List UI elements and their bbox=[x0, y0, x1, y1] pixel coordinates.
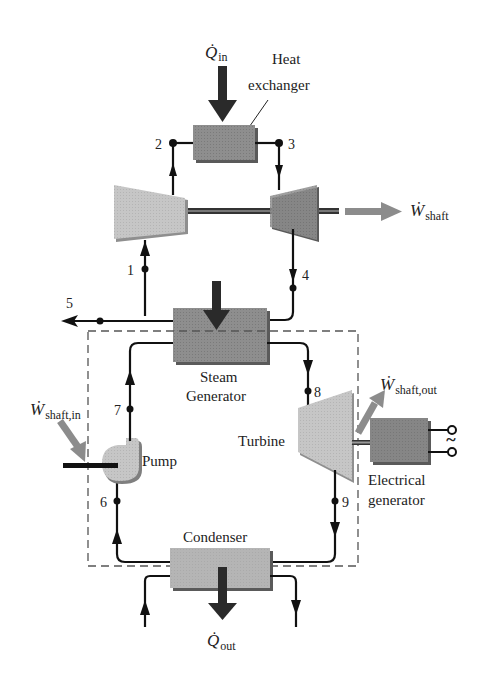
flow-arrow-icon bbox=[125, 370, 135, 385]
state-point-8-label: 8 bbox=[314, 385, 321, 400]
electrical-generator-label-line1: Electrical bbox=[368, 472, 425, 488]
steam-generator-label-line1: Steam bbox=[200, 369, 238, 385]
w-shaft-in-arrow-icon bbox=[60, 421, 86, 462]
state-point-9-label: 9 bbox=[342, 495, 349, 510]
pump-shaft bbox=[63, 463, 118, 468]
pipe-turbine-to-condenser bbox=[270, 470, 335, 562]
w-shaft-out-label: Ẇshaft,out bbox=[380, 375, 437, 397]
q-out-label: Q̇out bbox=[207, 631, 236, 653]
w-shaft-arrow-icon bbox=[345, 202, 402, 221]
state-point-5-dot bbox=[97, 318, 104, 325]
heat-exchanger-label-line1: Heat bbox=[272, 51, 301, 67]
state-point-1-dot bbox=[142, 266, 149, 273]
pump-label: Pump bbox=[142, 453, 177, 469]
cooling-water-inlet bbox=[145, 576, 170, 627]
q-in-arrow-icon bbox=[208, 66, 237, 122]
state-point-7-dot bbox=[127, 406, 134, 413]
state-point-4-label: 4 bbox=[302, 268, 309, 283]
heat-exchanger bbox=[193, 125, 258, 163]
flow-arrow-icon bbox=[330, 522, 340, 537]
ac-symbol-icon: ~ bbox=[446, 430, 456, 450]
pump bbox=[102, 438, 142, 484]
flow-arrow-icon bbox=[112, 529, 122, 544]
power-plant-diagram: Q̇in Heat exchanger 2 3 Ẇshaft 1 4 bbox=[0, 0, 485, 673]
state-point-4-dot bbox=[290, 285, 297, 292]
flow-arrow-icon bbox=[291, 600, 301, 615]
turbine-label: Turbine bbox=[238, 433, 285, 449]
pipe-4 bbox=[267, 229, 293, 320]
state-point-6-label: 6 bbox=[100, 495, 107, 510]
w-shaft-label: Ẇshaft bbox=[410, 201, 449, 223]
steam-turbine bbox=[298, 390, 354, 483]
compressor bbox=[114, 185, 188, 242]
state-point-2-label: 2 bbox=[155, 137, 162, 152]
pipe-pump-to-steam-generator bbox=[130, 343, 173, 441]
state-point-6-dot bbox=[114, 498, 121, 505]
state-point-5-label: 5 bbox=[66, 296, 73, 311]
steam-generator-label-line2: Generator bbox=[186, 388, 246, 404]
pipe-steam-to-turbine bbox=[267, 343, 308, 410]
electrical-generator bbox=[370, 418, 431, 465]
electrical-generator-label-line2: generator bbox=[368, 492, 425, 508]
flow-arrow-icon bbox=[169, 163, 177, 176]
state-point-1-label: 1 bbox=[127, 263, 134, 278]
flow-arrow-icon bbox=[289, 269, 297, 282]
state-point-3-label: 3 bbox=[288, 137, 295, 152]
flow-arrow-icon bbox=[140, 241, 150, 256]
heat-exchanger-label-line2: exchanger bbox=[248, 77, 310, 93]
state-point-8-dot bbox=[305, 388, 312, 395]
flow-arrow-icon bbox=[303, 360, 313, 375]
gas-turbine bbox=[270, 185, 319, 242]
q-in-label: Q̇in bbox=[205, 43, 228, 64]
state-point-7-label: 7 bbox=[114, 403, 121, 418]
state-point-9-dot bbox=[332, 498, 339, 505]
flow-arrow-icon bbox=[275, 165, 283, 178]
condenser-label: Condenser bbox=[183, 529, 247, 545]
w-shaft-in-label: Ẇshaft,in bbox=[30, 400, 81, 422]
state-point-2-dot bbox=[169, 139, 177, 147]
pipe-condenser-to-pump bbox=[117, 478, 170, 562]
state-point-3-dot bbox=[275, 139, 283, 147]
flow-arrow-icon bbox=[140, 600, 150, 615]
